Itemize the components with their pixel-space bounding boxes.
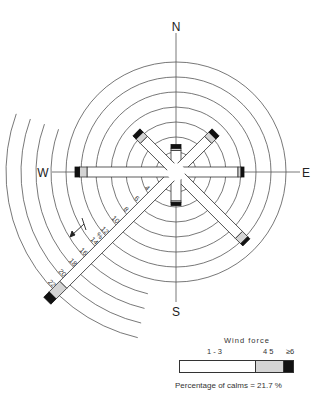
legend-label-high: ≥6 <box>286 347 294 356</box>
legend-segment-1-3 <box>180 361 255 372</box>
legend-label-mid: 4 5 <box>263 347 273 356</box>
bar-se <box>172 168 249 245</box>
center-hub <box>167 163 185 181</box>
radial-tick-labels: 4681012%1416182022 <box>47 184 152 289</box>
wind-rose-chart: 4681012%1416182022 N S W E <box>0 0 322 394</box>
bar-w <box>75 167 176 177</box>
legend-segment-4-5 <box>255 361 283 372</box>
legend-title: Wind force <box>224 336 270 345</box>
calms-percentage: Percentage of calms = 21.7 % <box>175 381 282 390</box>
bar-sw <box>44 168 180 304</box>
compass-label-n: N <box>172 20 181 34</box>
compass-label-w: W <box>37 166 49 180</box>
compass-label-e: E <box>302 166 310 180</box>
percent-arrow-icon <box>70 218 86 237</box>
legend-color-bar <box>179 360 294 373</box>
compass-label-s: S <box>172 305 180 319</box>
legend-segment->=6 <box>283 361 293 372</box>
legend-label-low: 1 - 3 <box>207 347 222 356</box>
